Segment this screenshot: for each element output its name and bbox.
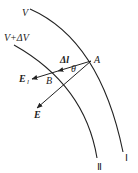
tangential-field-subscript: l: [27, 78, 29, 86]
curve-label-1: Ⅰ: [125, 152, 128, 163]
equipotential-curve-2: [14, 45, 97, 158]
tangential-field-label: E: [18, 73, 26, 84]
potential-label-2: V+ΔV: [4, 32, 31, 43]
delta-l-label: Δl: [59, 54, 69, 65]
angle-theta-label: θ: [71, 63, 76, 74]
point-a-label: A: [93, 54, 101, 65]
field-label: E: [33, 109, 41, 120]
point-b-label: B: [46, 75, 52, 86]
curve-label-2: Ⅱ: [97, 161, 102, 172]
potential-label-1: V: [22, 7, 30, 18]
equipotential-curve-1: [30, 9, 123, 152]
equipotential-diagram: V V+ΔV A B Δl θ E l E Ⅰ Ⅱ: [0, 0, 138, 173]
